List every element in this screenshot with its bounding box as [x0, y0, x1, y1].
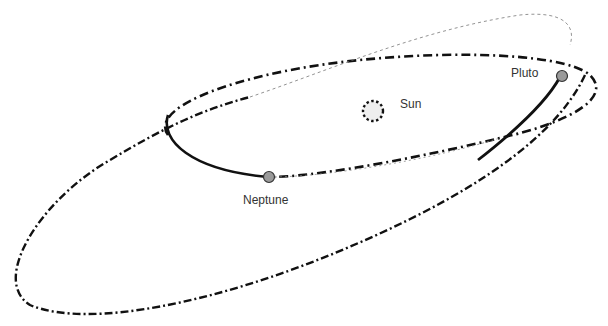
- pluto-path: [478, 77, 560, 160]
- sun-label: Sun: [400, 97, 421, 111]
- neptune-label: Neptune: [243, 193, 288, 207]
- pluto-label: Pluto: [511, 66, 538, 80]
- neptune-path: [167, 115, 268, 177]
- pluto-orbit: [16, 14, 585, 314]
- neptune-body-icon: [264, 172, 275, 183]
- orbit-canvas: [0, 0, 608, 326]
- sun-icon: [363, 101, 383, 121]
- pluto-body-icon: [557, 71, 568, 82]
- orbit-diagram: Sun Pluto Neptune: [0, 0, 608, 326]
